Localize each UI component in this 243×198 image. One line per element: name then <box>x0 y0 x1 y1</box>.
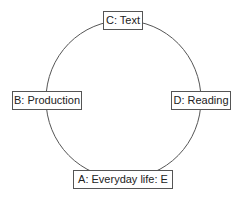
node-c-text: C: Text <box>103 11 143 30</box>
node-a-everyday-life: A: Everyday life: E <box>73 170 173 189</box>
node-d-reading: D: Reading <box>171 91 231 110</box>
node-b-production: B: Production <box>12 91 82 110</box>
